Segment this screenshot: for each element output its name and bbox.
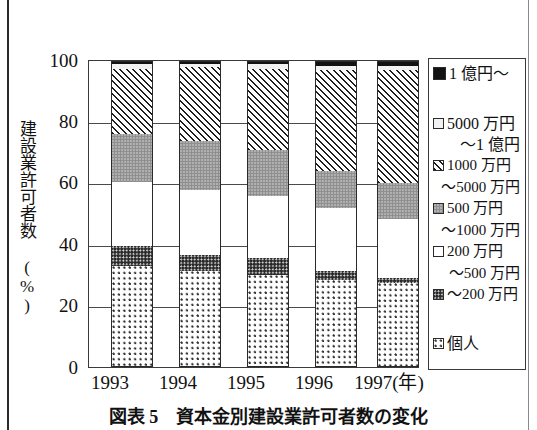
bar-segment-1996-1000万円〜5000万円	[315, 70, 357, 171]
bar-segment-1996-500万円〜1000万円	[315, 171, 357, 208]
figure-caption: 図表 5 資本金別建設業許可者数の変化	[0, 406, 537, 428]
bar-segment-1996-1億円〜	[315, 61, 357, 66]
bar-segment-1995-1億円〜	[247, 61, 289, 64]
x-tick-label-1993: 1993	[89, 372, 131, 393]
bar-segment-1993-個人	[111, 266, 153, 367]
bar-segment-1993-1億円〜	[111, 61, 153, 64]
bar-segment-1994-200万円〜500万円	[179, 190, 221, 256]
legend-item-man5000: 5000 万円	[433, 115, 515, 132]
legend-label-man5000-cont: 〜1 億円	[433, 136, 523, 153]
bar-1996	[315, 61, 357, 367]
bar-segment-1996-〜200万円	[315, 271, 357, 280]
legend-item-kojin: 個人	[433, 335, 479, 352]
legend-label-oku: 1 億円〜	[449, 65, 509, 82]
legend: 1 億円〜 5000 万円 〜1 億円 1000 万円 〜5000 万円 500…	[428, 58, 526, 370]
bar-segment-1997-1億円〜	[377, 61, 419, 66]
bar-segment-1995-200万円〜500万円	[247, 196, 289, 259]
figure-page: 建設業許可者数 (%) 100 80 60 40 20 0 1993 1994 …	[0, 0, 537, 430]
bar-segment-1994-個人	[179, 271, 221, 367]
bar-segment-1994-500万円〜1000万円	[179, 141, 221, 190]
bar-segment-1997-500万円〜1000万円	[377, 183, 419, 218]
legend-label-man200: 200 万円	[447, 243, 503, 259]
y-tick-label-0: 0	[34, 358, 78, 377]
legend-label-kojin: 個人	[447, 335, 479, 352]
legend-label-man200-cont: 〜500 万円	[433, 265, 523, 281]
x-tick-label-1996: 1996	[293, 372, 335, 393]
bar-segment-1994-〜200万円	[179, 255, 221, 270]
legend-label-under200: 〜200 万円	[447, 286, 518, 302]
legend-swatch-man200-icon	[433, 246, 444, 257]
legend-label-man500-cont: 〜1000 万円	[433, 222, 523, 238]
bar-segment-1997-1000万円〜5000万円	[377, 70, 419, 183]
page-right-edge-rule	[528, 0, 529, 430]
bar-1995	[247, 61, 289, 367]
bar-segment-1997-200万円〜500万円	[377, 219, 419, 279]
bar-segment-1995-〜200万円	[247, 258, 289, 275]
y-tick-label-100: 100	[34, 51, 78, 70]
bar-segment-1995-個人	[247, 275, 289, 367]
bar-segment-1993-〜200万円	[111, 246, 153, 266]
legend-swatch-kojin-icon	[433, 338, 444, 349]
bar-segment-1996-5000万円〜1億円	[315, 66, 357, 71]
x-tick-label-1997: 1997(年)	[349, 372, 429, 393]
legend-swatch-under200-icon	[433, 289, 444, 300]
legend-swatch-oku-icon	[433, 67, 446, 80]
legend-item-oku: 1 億円〜	[433, 65, 509, 82]
legend-item-under200: 〜200 万円	[433, 286, 518, 302]
legend-swatch-man1000-icon	[433, 160, 444, 171]
plot-area	[88, 60, 419, 368]
bar-segment-1993-1000万円〜5000万円	[111, 69, 153, 135]
legend-item-man200: 200 万円	[433, 243, 503, 259]
page-gutter-rule	[7, 0, 9, 430]
bar-segment-1994-5000万円〜1億円	[179, 64, 221, 67]
bar-segment-1997-5000万円〜1億円	[377, 66, 419, 71]
legend-item-man1000: 1000 万円	[433, 157, 511, 173]
bar-segment-1996-200万円〜500万円	[315, 208, 357, 271]
bar-segment-1994-1000万円〜5000万円	[179, 67, 221, 140]
bar-segment-1997-個人	[377, 283, 419, 367]
bar-segment-1994-1億円〜	[179, 61, 221, 64]
bar-segment-1993-5000万円〜1億円	[111, 64, 153, 69]
bar-segment-1997-〜200万円	[377, 278, 419, 283]
x-tick-label-1995: 1995	[225, 372, 267, 393]
legend-label-man1000: 1000 万円	[447, 157, 511, 173]
legend-item-man500: 500 万円	[433, 200, 503, 216]
y-tick-label-40: 40	[34, 235, 78, 254]
bar-segment-1993-500万円〜1000万円	[111, 134, 153, 181]
legend-swatch-man500-icon	[433, 203, 444, 214]
legend-label-man500: 500 万円	[447, 200, 503, 216]
y-tick-label-60: 60	[34, 173, 78, 192]
y-tick-label-80: 80	[34, 112, 78, 131]
legend-swatch-man5000-icon	[433, 118, 444, 129]
bar-segment-1995-500万円〜1000万円	[247, 150, 289, 196]
bar-1993	[111, 61, 153, 367]
bar-1994	[179, 61, 221, 367]
bar-segment-1995-1000万円〜5000万円	[247, 69, 289, 150]
bar-segment-1995-5000万円〜1億円	[247, 64, 289, 69]
bar-segment-1993-200万円〜500万円	[111, 182, 153, 246]
legend-label-man1000-cont: 〜5000 万円	[433, 179, 523, 195]
bar-1997	[377, 61, 419, 367]
bar-segment-1996-個人	[315, 280, 357, 367]
y-tick-label-20: 20	[34, 296, 78, 315]
legend-label-man5000: 5000 万円	[447, 115, 515, 132]
x-tick-label-1994: 1994	[157, 372, 199, 393]
